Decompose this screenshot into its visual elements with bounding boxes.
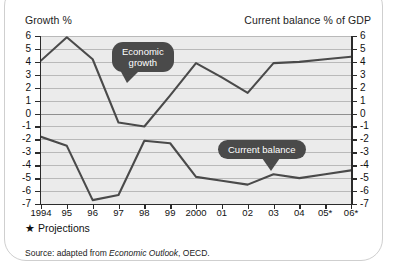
y-axis-label-right: 6	[360, 31, 384, 41]
y-axis-label-right: 5	[360, 44, 384, 54]
y-axis-tick	[352, 88, 357, 89]
y-axis-label-left: -4	[9, 160, 31, 170]
y-axis-label-left: -2	[9, 134, 31, 144]
y-axis-tick	[352, 36, 357, 37]
y-axis-tick	[35, 75, 40, 76]
y-axis-tick	[352, 101, 357, 102]
series-lines	[41, 36, 351, 204]
y-axis-tick	[35, 152, 40, 153]
y-axis-tick	[352, 152, 357, 153]
y-axis-tick	[352, 126, 357, 127]
y-axis-label-right: -7	[360, 199, 384, 209]
x-axis-label: 98	[139, 207, 150, 218]
y-axis-tick	[35, 62, 40, 63]
x-axis-label: 1994	[30, 207, 51, 218]
y-axis-label-right: 3	[360, 70, 384, 80]
y-axis-label-right: -3	[360, 147, 384, 157]
y-axis-label-right: 2	[360, 83, 384, 93]
y-axis-label-right: -5	[360, 173, 384, 183]
y-axis-label-left: 3	[9, 70, 31, 80]
chart-figure: Growth % Current balance % of GDP Econom…	[0, 0, 393, 267]
y-axis-label-left: -7	[9, 199, 31, 209]
y-axis-tick	[35, 49, 40, 50]
x-axis-label: 97	[113, 207, 124, 218]
y-axis-tick	[352, 75, 357, 76]
y-axis-label-right: 4	[360, 57, 384, 67]
y-axis-label-left: -6	[9, 186, 31, 196]
y-axis-tick	[352, 139, 357, 140]
y-axis-tick	[35, 191, 40, 192]
x-axis-label: 06*	[344, 207, 358, 218]
y-axis-label-left: -5	[9, 173, 31, 183]
right-axis-title: Current balance % of GDP	[244, 14, 371, 26]
y-axis-tick	[352, 178, 357, 179]
callout-economic-growth: Economic growth	[112, 42, 174, 72]
x-axis-label: 01	[217, 207, 228, 218]
y-axis-label-right: -4	[360, 160, 384, 170]
y-axis-tick	[352, 49, 357, 50]
callout-balance-pointer	[262, 158, 280, 171]
y-axis-tick	[35, 126, 40, 127]
x-axis-label: 02	[242, 207, 253, 218]
projections-note: ★ Projections	[25, 222, 90, 234]
y-axis-tick	[352, 165, 357, 166]
y-axis-label-left: 1	[9, 96, 31, 106]
source-note: Source: adapted from Economic Outlook, O…	[25, 248, 210, 258]
y-axis-label-left: 6	[9, 31, 31, 41]
callout-current-balance: Current balance	[218, 140, 306, 159]
y-axis-label-left: -3	[9, 147, 31, 157]
y-axis-label-left: 2	[9, 83, 31, 93]
y-axis-tick	[35, 101, 40, 102]
callout-balance-label: Current balance	[228, 144, 296, 155]
callout-growth-line1: Economic	[122, 46, 164, 57]
y-axis-tick	[35, 139, 40, 140]
y-axis-tick	[352, 114, 357, 115]
callout-growth-line2: growth	[129, 57, 158, 68]
y-axis-label-left: -1	[9, 121, 31, 131]
y-axis-tick	[35, 204, 40, 205]
y-axis-tick	[35, 114, 40, 115]
x-axis-label: 03	[268, 207, 279, 218]
y-axis-label-left: 0	[9, 109, 31, 119]
y-axis-tick	[352, 191, 357, 192]
left-axis-title: Growth %	[25, 14, 72, 26]
y-axis-label-right: -1	[360, 121, 384, 131]
y-axis-tick	[35, 165, 40, 166]
y-axis-label-left: 5	[9, 44, 31, 54]
y-axis-label-right: 1	[360, 96, 384, 106]
y-axis-label-left: 4	[9, 57, 31, 67]
source-publication: Economic Outlook	[109, 248, 178, 258]
y-axis-label-right: 0	[360, 109, 384, 119]
source-prefix: Source: adapted from	[25, 248, 109, 258]
x-axis-label: 95	[62, 207, 73, 218]
callout-growth-pointer	[120, 70, 140, 83]
y-axis-tick	[35, 36, 40, 37]
x-axis-label: 96	[87, 207, 98, 218]
x-axis-label: 2000	[185, 207, 206, 218]
x-axis-label: 04	[294, 207, 305, 218]
y-axis-label-right: -2	[360, 134, 384, 144]
line-economic-growth	[41, 37, 351, 126]
source-suffix: , OECD.	[178, 248, 210, 258]
y-axis-tick	[35, 88, 40, 89]
y-axis-tick	[35, 178, 40, 179]
y-axis-tick	[352, 62, 357, 63]
y-axis-label-right: -6	[360, 186, 384, 196]
x-axis-label: 05*	[318, 207, 332, 218]
x-axis-label: 99	[165, 207, 176, 218]
